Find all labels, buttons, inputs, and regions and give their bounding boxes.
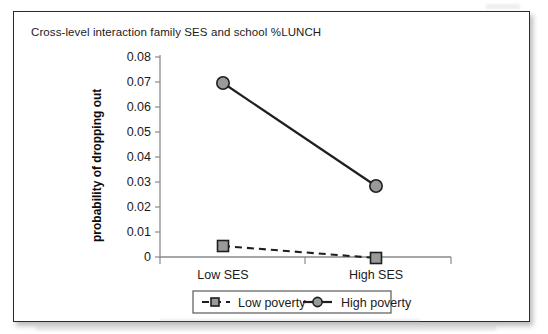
figure-root: Cross-level interaction family SES and s… [0,0,548,334]
y-tick-label: 0.02 [127,200,151,214]
legend-label-low-poverty: Low poverty [238,296,306,310]
y-tick-label: 0.01 [127,225,151,239]
chart-plot-area: 0.08 0.07 0.06 0.05 0.04 0.03 0.02 0.01 … [14,12,531,323]
y-tick-label: 0.05 [127,125,151,139]
data-point-low-poverty-high-ses [371,253,382,264]
chart-legend: Low poverty High poverty [193,291,412,313]
y-tick-label: 0.04 [127,150,151,164]
legend-label-high-poverty: High poverty [341,296,412,310]
legend-square-marker-icon [211,298,219,306]
y-tick-label: 0.07 [127,75,151,89]
y-tick-label: 0.08 [127,50,151,64]
series-low-poverty [218,241,382,264]
chart-card: Cross-level interaction family SES and s… [13,11,530,322]
x-axis-ticks [160,257,451,264]
y-tick-label: 0.06 [127,100,151,114]
data-point-high-poverty-low-ses [217,77,229,89]
y-tick-label: 0 [144,250,151,264]
data-point-low-poverty-low-ses [218,241,229,252]
x-category-label-high-ses: High SES [349,268,403,282]
y-tick-label: 0.03 [127,175,151,189]
series-line-high-poverty [223,83,376,186]
y-axis-ticks [155,57,160,257]
x-category-label-low-ses: Low SES [197,268,248,282]
data-point-high-poverty-high-ses [370,180,382,192]
series-high-poverty [217,77,382,192]
series-line-low-poverty [223,246,376,258]
y-axis-title: probability of dropping out [90,89,104,242]
legend-circle-marker-icon [313,297,322,306]
